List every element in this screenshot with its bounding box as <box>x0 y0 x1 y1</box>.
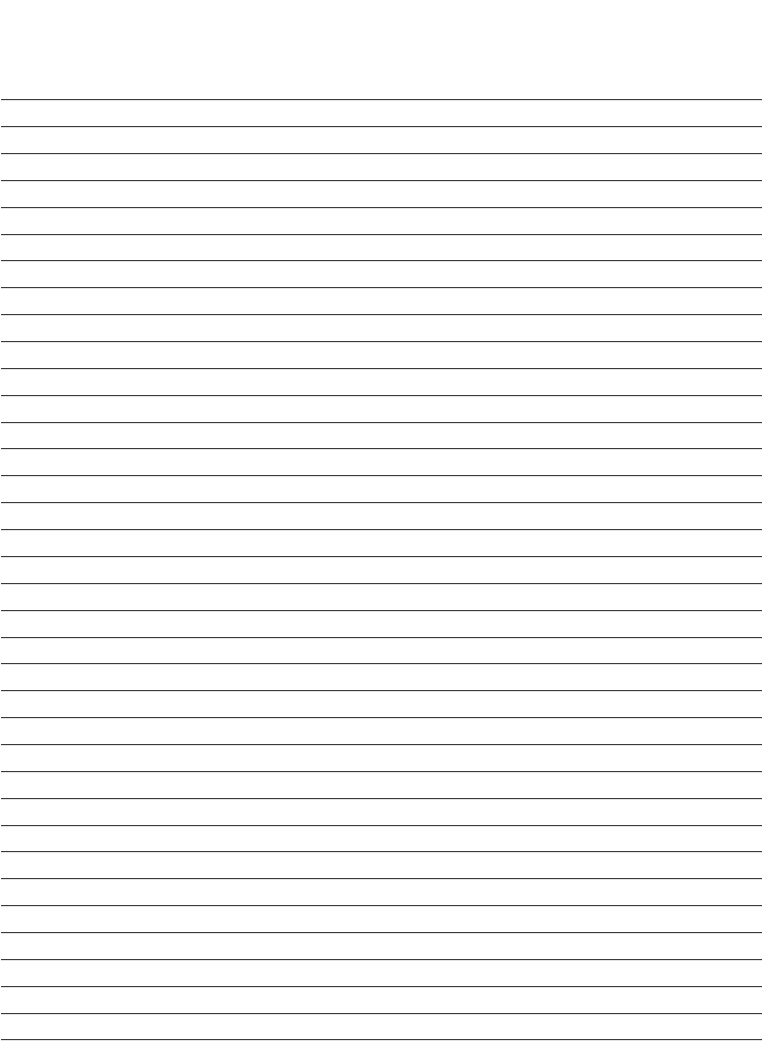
ruled-line <box>1 260 762 261</box>
ruled-line <box>1 959 762 960</box>
ruled-line <box>1 583 762 584</box>
ruled-line <box>1 986 762 987</box>
ruled-line <box>1 126 762 127</box>
ruled-line <box>1 1039 762 1040</box>
ruled-line <box>1 502 762 503</box>
ruled-line <box>1 99 762 100</box>
ruled-line <box>1 529 762 530</box>
ruled-line <box>1 448 762 449</box>
ruled-line <box>1 690 762 691</box>
ruled-line <box>1 314 762 315</box>
ruled-line <box>1 207 762 208</box>
ruled-line <box>1 717 762 718</box>
ruled-line <box>1 287 762 288</box>
ruled-line <box>1 610 762 611</box>
ruled-line <box>1 1013 762 1014</box>
ruled-line <box>1 475 762 476</box>
ruled-line <box>1 851 762 852</box>
ruled-line <box>1 180 762 181</box>
ruled-line <box>1 368 762 369</box>
ruled-line <box>1 663 762 664</box>
ruled-line <box>1 341 762 342</box>
lined-paper-page <box>0 0 767 1053</box>
ruled-line <box>1 905 762 906</box>
ruled-line <box>1 744 762 745</box>
ruled-line <box>1 234 762 235</box>
ruled-line <box>1 395 762 396</box>
ruled-line <box>1 637 762 638</box>
ruled-line <box>1 422 762 423</box>
ruled-line <box>1 556 762 557</box>
ruled-line <box>1 153 762 154</box>
ruled-line <box>1 771 762 772</box>
ruled-line <box>1 798 762 799</box>
ruled-line <box>1 932 762 933</box>
ruled-line <box>1 825 762 826</box>
ruled-line <box>1 878 762 879</box>
